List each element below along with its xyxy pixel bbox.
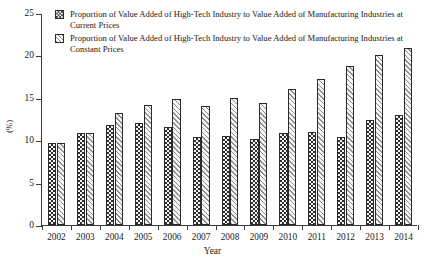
bar-2009-constant-prices bbox=[259, 103, 267, 225]
x-tick bbox=[158, 225, 159, 230]
y-tick-label: 20 bbox=[25, 52, 35, 62]
bar-2004-current-prices bbox=[106, 125, 114, 225]
bar-2008-current-prices bbox=[222, 136, 230, 225]
x-tick bbox=[302, 225, 303, 230]
x-tick bbox=[331, 225, 332, 230]
x-tick bbox=[42, 225, 43, 230]
x-tick bbox=[244, 225, 245, 230]
legend-swatch-constant-prices bbox=[55, 34, 64, 43]
bar-2005-current-prices bbox=[135, 123, 143, 225]
y-tick-label: 5 bbox=[29, 179, 34, 189]
y-tick bbox=[36, 56, 42, 57]
x-tick-label: 2014 bbox=[394, 232, 413, 242]
bar-2013-constant-prices bbox=[375, 55, 383, 225]
x-tick-label: 2009 bbox=[250, 232, 269, 242]
x-tick-label: 2006 bbox=[163, 232, 182, 242]
x-tick-label: 2003 bbox=[76, 232, 95, 242]
x-tick bbox=[418, 225, 419, 230]
bar-2011-current-prices bbox=[308, 132, 316, 225]
x-tick-label: 2004 bbox=[105, 232, 124, 242]
bar-2008-constant-prices bbox=[230, 98, 238, 225]
x-tick-label: 2007 bbox=[192, 232, 211, 242]
y-tick bbox=[36, 99, 42, 100]
x-tick-label: 2011 bbox=[308, 232, 326, 242]
bar-2004-constant-prices bbox=[115, 113, 123, 225]
legend-item: Proportion of Value Added of High-Tech I… bbox=[55, 33, 407, 54]
bar-2014-constant-prices bbox=[404, 48, 412, 225]
x-tick-label: 2013 bbox=[365, 232, 384, 242]
x-tick bbox=[187, 225, 188, 230]
legend-item: Proportion of Value Added of High-Tech I… bbox=[55, 9, 407, 30]
bar-2014-current-prices bbox=[395, 115, 403, 225]
y-axis-title: (%) bbox=[4, 120, 14, 133]
bar-2002-current-prices bbox=[48, 143, 56, 225]
y-tick-label: 10 bbox=[25, 136, 35, 146]
bar-2006-constant-prices bbox=[172, 99, 180, 225]
x-tick bbox=[100, 225, 101, 230]
x-tick bbox=[216, 225, 217, 230]
bar-2002-constant-prices bbox=[57, 143, 65, 225]
bar-2011-constant-prices bbox=[317, 79, 325, 225]
x-tick-label: 2010 bbox=[279, 232, 298, 242]
bar-2003-constant-prices bbox=[86, 133, 94, 225]
y-tick bbox=[36, 184, 42, 185]
y-tick bbox=[36, 14, 42, 15]
x-tick-label: 2002 bbox=[47, 232, 66, 242]
x-tick-label: 2005 bbox=[134, 232, 153, 242]
bar-2010-current-prices bbox=[279, 133, 287, 225]
x-tick bbox=[273, 225, 274, 230]
legend-swatch-current-prices bbox=[55, 10, 64, 19]
bar-2003-current-prices bbox=[77, 133, 85, 225]
x-tick bbox=[360, 225, 361, 230]
bar-2007-constant-prices bbox=[201, 106, 209, 225]
x-axis-title: Year bbox=[0, 246, 425, 256]
y-tick-label: 15 bbox=[25, 94, 35, 104]
bar-2009-current-prices bbox=[250, 139, 258, 225]
bar-2013-current-prices bbox=[366, 120, 374, 225]
x-tick-label: 2012 bbox=[336, 232, 355, 242]
bar-2012-current-prices bbox=[337, 137, 345, 225]
bar-2012-constant-prices bbox=[346, 66, 354, 225]
y-tick-label: 0 bbox=[29, 221, 34, 231]
legend-label-current-prices: Proportion of Value Added of High-Tech I… bbox=[70, 9, 406, 30]
bar-2005-constant-prices bbox=[144, 105, 152, 225]
bar-2006-current-prices bbox=[164, 127, 172, 225]
y-tick bbox=[36, 141, 42, 142]
chart-legend: Proportion of Value Added of High-Tech I… bbox=[55, 9, 407, 57]
legend-label-constant-prices: Proportion of Value Added of High-Tech I… bbox=[70, 33, 406, 54]
y-tick-label: 25 bbox=[25, 9, 35, 19]
bar-chart: (%) 0510152025 2002200320042005200620072… bbox=[0, 0, 425, 270]
bar-2010-constant-prices bbox=[288, 89, 296, 225]
x-tick-label: 2008 bbox=[221, 232, 240, 242]
bar-2007-current-prices bbox=[193, 137, 201, 225]
x-tick bbox=[129, 225, 130, 230]
x-tick bbox=[71, 225, 72, 230]
x-tick bbox=[389, 225, 390, 230]
